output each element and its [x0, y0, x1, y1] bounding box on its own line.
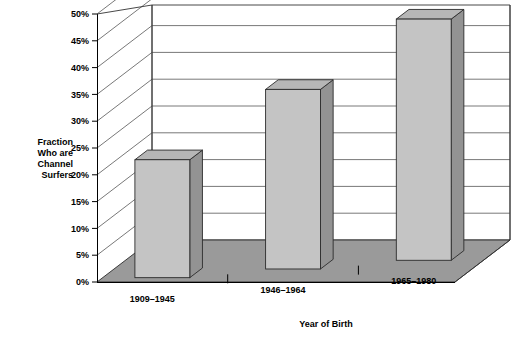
bar-top-face: [266, 80, 334, 90]
x-axis-title: Year of Birth: [299, 319, 353, 329]
y-tick-label: 15%: [71, 197, 89, 207]
y-tick-label: 10%: [71, 224, 89, 234]
bar-side-face: [190, 150, 203, 278]
y-axis-title: FractionWho areChannelSurfers: [37, 137, 73, 180]
y-axis-title-line: Who are: [37, 148, 73, 158]
x-category-label: 1909–1945: [130, 294, 175, 304]
y-axis-title-line: Fraction: [37, 137, 73, 147]
y-tick-label: 40%: [71, 63, 89, 73]
x-category-label: 1946–1964: [261, 285, 306, 295]
y-tick-label: 30%: [71, 116, 89, 126]
bar-side-face: [451, 9, 464, 260]
bar-group: [396, 9, 464, 260]
bar-front-face: [266, 89, 321, 269]
bar-group: [266, 80, 334, 269]
y-tick-label: 50%: [71, 9, 89, 19]
y-tick-label: 25%: [71, 143, 89, 153]
y-tick-label: 35%: [71, 90, 89, 100]
y-tick-label: 0%: [76, 277, 89, 287]
bar-top-face: [396, 9, 464, 19]
y-tick-label: 45%: [71, 36, 89, 46]
bar-front-face: [396, 19, 451, 260]
y-axis-title-line: Channel: [37, 159, 73, 169]
bar-chart-3d: 0%5%10%15%20%25%30%35%40%45%50% 1909–194…: [0, 0, 525, 344]
x-category-label: 1965–1980: [391, 276, 436, 286]
y-tick-label: 5%: [76, 250, 89, 260]
bar-front-face: [135, 160, 190, 278]
bar-group: [135, 150, 203, 278]
bar-top-face: [135, 150, 203, 160]
chart-container: 0%5%10%15%20%25%30%35%40%45%50% 1909–194…: [0, 0, 525, 344]
y-tick-label: 20%: [71, 170, 89, 180]
bar-side-face: [320, 80, 333, 269]
y-axis-title-line: Surfers: [41, 170, 73, 180]
